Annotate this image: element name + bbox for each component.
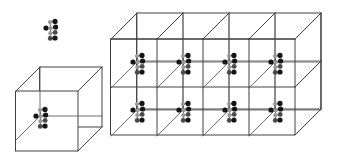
dark-atom-r1c2-0	[222, 107, 227, 112]
dark-atom-r0c0-3	[139, 53, 144, 58]
lattice-depth-right-bottom	[295, 109, 321, 135]
lattice-clusters	[130, 53, 283, 123]
cell-axis-d-r0c0	[111, 62, 137, 88]
dark-atom-single-cell-4	[43, 112, 48, 117]
dark-atom-r1c2-4	[232, 106, 237, 111]
mid-atom-r0c3-6	[278, 64, 283, 69]
lattice-depth-right-mid	[295, 61, 321, 87]
mid-atom-r1c1-7	[181, 118, 186, 123]
light-atom-r0c0-1	[136, 60, 140, 64]
dark-atom-r1c0-0	[130, 107, 135, 112]
mid-atom-r1c1-6	[186, 112, 191, 117]
mid-atom-r0c2-6	[232, 64, 237, 69]
dark-atom-r0c3-4	[278, 58, 283, 63]
mid-atom-floating-7	[48, 36, 53, 41]
dark-atom-r0c3-3	[277, 53, 282, 58]
mid-atom-r0c1-6	[186, 64, 191, 69]
dark-atom-r0c0-0	[130, 59, 135, 64]
dark-atom-r1c1-8	[185, 117, 190, 122]
dark-atom-r0c1-4	[186, 58, 191, 63]
molecular-cluster-r0c2	[222, 53, 237, 75]
dark-atom-r0c3-8	[277, 69, 282, 74]
light-atom-r1c1-2	[181, 102, 185, 106]
light-atom-r0c1-1	[182, 60, 186, 64]
dark-atom-r1c3-0	[268, 107, 273, 112]
mid-atom-r1c0-7	[135, 118, 140, 123]
light-atom-r1c3-2	[273, 102, 277, 106]
dark-atom-floating-3	[52, 19, 57, 24]
cell-axis-d-r1c0	[111, 110, 137, 136]
dark-atom-r0c3-0	[268, 59, 273, 64]
light-atom-r1c0-2	[135, 102, 139, 106]
light-atom-r1c3-1	[274, 108, 278, 112]
mid-atom-r0c1-7	[181, 70, 186, 75]
dark-atom-floating-4	[53, 24, 58, 29]
mid-atom-floating-6	[53, 30, 58, 35]
light-atom-r1c2-1	[228, 108, 232, 112]
mid-atom-r1c3-7	[273, 118, 278, 123]
mid-atom-r0c3-7	[273, 70, 278, 75]
dark-atom-r1c3-8	[277, 117, 282, 122]
molecular-cluster-r1c1	[176, 101, 191, 123]
mid-atom-single-cell-7	[38, 124, 43, 129]
light-atom-r0c0-5	[135, 65, 139, 69]
mid-atom-r0c0-7	[135, 70, 140, 75]
light-atom-r0c1-2	[181, 54, 185, 58]
dark-atom-r1c0-4	[140, 106, 145, 111]
light-atom-r1c0-1	[136, 108, 140, 112]
dark-atom-r0c2-3	[231, 53, 236, 58]
dark-atom-r0c2-4	[232, 58, 237, 63]
lattice-depth-top-left	[111, 13, 137, 39]
mid-atom-r1c2-7	[227, 118, 232, 123]
light-atom-r0c1-5	[181, 65, 185, 69]
single-cell-connector-top-left	[16, 67, 40, 91]
molecular-cluster-floating	[43, 19, 58, 41]
dark-atom-r1c2-3	[231, 101, 236, 106]
dark-atom-r1c0-3	[139, 101, 144, 106]
mid-atom-r0c2-7	[227, 70, 232, 75]
cell-axis-d-r0c1	[157, 62, 183, 88]
lattice-depth-top-3	[249, 13, 275, 39]
dark-atom-r0c2-0	[222, 59, 227, 64]
dark-atom-r0c1-8	[185, 69, 190, 74]
dark-atom-r0c2-8	[231, 69, 236, 74]
crystal-structure-figure	[0, 0, 354, 165]
light-atom-single-cell-2	[38, 108, 42, 112]
mid-atom-r0c0-6	[140, 64, 145, 69]
crystal-diagram-canvas	[0, 0, 354, 165]
dark-atom-single-cell-8	[42, 123, 47, 128]
dark-atom-single-cell-0	[33, 113, 38, 118]
light-atom-r1c1-1	[182, 108, 186, 112]
light-atom-floating-2	[48, 20, 52, 24]
molecular-cluster-r1c0	[130, 101, 145, 123]
cell-axis-d-r1c2	[203, 110, 229, 136]
light-atom-single-cell-5	[38, 119, 42, 123]
dark-atom-r0c1-0	[176, 59, 181, 64]
light-atom-r0c2-5	[227, 65, 231, 69]
light-atom-r0c3-2	[273, 54, 277, 58]
lattice-depth-top-2	[203, 13, 229, 39]
dark-atom-r1c1-4	[186, 106, 191, 111]
molecular-cluster-r0c0	[130, 53, 145, 75]
mid-atom-single-cell-6	[43, 118, 48, 123]
lattice-depth-top-right	[295, 13, 321, 39]
lattice-array-block	[111, 13, 321, 136]
light-atom-r1c0-5	[135, 113, 139, 117]
single-unit-cell	[16, 67, 102, 151]
light-atom-r0c0-2	[135, 54, 139, 58]
single-cell-connector-bottom-right	[78, 127, 102, 151]
dark-atom-r0c0-4	[140, 58, 145, 63]
light-atom-r0c2-1	[228, 60, 232, 64]
detached-molecular-cluster	[43, 19, 58, 41]
light-atom-r0c3-5	[273, 65, 277, 69]
molecular-cluster-r1c3	[268, 101, 283, 123]
cell-axis-d-r1c1	[157, 110, 183, 136]
dark-atom-r1c2-8	[231, 117, 236, 122]
molecular-cluster-r0c3	[268, 53, 283, 75]
molecular-cluster-r1c2	[222, 101, 237, 123]
dark-atom-r1c1-3	[185, 101, 190, 106]
dark-atom-r1c3-3	[277, 101, 282, 106]
light-atom-r1c2-5	[227, 113, 231, 117]
dark-atom-single-cell-3	[42, 107, 47, 112]
dark-atom-r1c3-4	[278, 106, 283, 111]
